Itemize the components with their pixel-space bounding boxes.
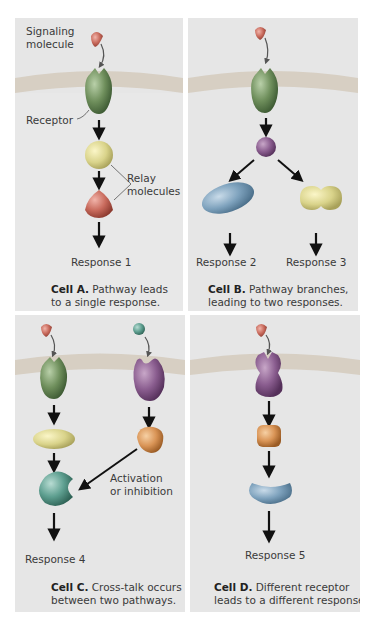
receptor-icon	[255, 352, 282, 397]
response-label: Response 5	[245, 549, 305, 562]
signaling-molecule-icon	[133, 323, 145, 335]
cell-c-diagram	[15, 315, 185, 612]
relay-molecule-icon	[39, 471, 73, 505]
panel-cell-c: Activation or inhibition Response 4 Cell…	[15, 315, 185, 612]
panel-cell-b: Response 2 Response 3 Cell B. Pathway br…	[188, 18, 358, 311]
response-protein-icon	[300, 186, 342, 210]
response-2-label: Response 2	[196, 256, 256, 269]
panel-cell-a: Signaling molecule Receptor Relay molecu…	[15, 18, 183, 311]
arrow-icon	[278, 160, 299, 178]
caption: Cell C. Cross-talk occurs between two pa…	[51, 581, 182, 607]
relay-molecule-icon	[249, 483, 292, 504]
signaling-molecule-icon	[255, 27, 266, 40]
caption: Cell D. Different receptor leads to a di…	[214, 581, 360, 607]
caption: Cell A. Pathway leads to a single respon…	[51, 283, 168, 309]
receptor-label: Receptor	[26, 114, 73, 127]
response-3-label: Response 3	[286, 256, 346, 269]
relay-molecule-icon	[137, 427, 163, 453]
signaling-molecule-label: Signaling molecule	[26, 25, 75, 50]
receptor-icon	[40, 357, 67, 399]
relay-molecule-icon	[256, 137, 276, 157]
receptor-icon	[133, 359, 164, 402]
relay-molecule-icon	[85, 141, 113, 169]
signaling-molecule-icon	[41, 324, 52, 337]
arrow-icon	[233, 160, 254, 178]
relay-molecule-icon	[33, 429, 75, 449]
relay-molecule-icon	[257, 425, 281, 447]
relay-molecules-label: Relay molecules	[127, 172, 180, 197]
response-protein-icon	[198, 176, 258, 219]
activation-inhibition-label: Activation or inhibition	[110, 472, 173, 497]
response-label: Response 4	[25, 553, 85, 566]
cell-d-diagram	[190, 315, 360, 612]
panel-cell-d: Response 5 Cell D. Different receptor le…	[190, 315, 360, 612]
signaling-molecule-icon	[256, 324, 267, 337]
response-label: Response 1	[71, 256, 131, 269]
caption: Cell B. Pathway branches, leading to two…	[208, 283, 348, 309]
